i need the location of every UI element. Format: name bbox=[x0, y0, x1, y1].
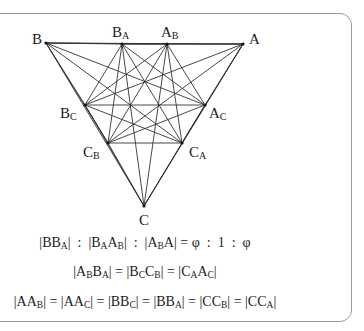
vertex-CB bbox=[106, 141, 109, 144]
formula-line-2: |ABBA| = |BCCB| = |CAAC| bbox=[0, 264, 290, 280]
edge-CB-BC bbox=[85, 105, 108, 143]
formula-line-1: |BBA| : |BAAB| : |ABA| = φ : 1 : φ bbox=[0, 235, 290, 251]
vertex-CA bbox=[180, 141, 183, 144]
label-AB: AB bbox=[161, 25, 179, 43]
vertex-AC bbox=[203, 103, 206, 106]
vertex-BC bbox=[83, 103, 86, 106]
label-CB: CB bbox=[83, 145, 100, 163]
vertex-B bbox=[44, 41, 47, 44]
edge-BA-BC bbox=[85, 44, 122, 105]
label-AC: AC bbox=[209, 106, 227, 124]
vertex-C bbox=[142, 204, 145, 207]
label-CA: CA bbox=[189, 145, 206, 163]
edge-CA-BC bbox=[85, 105, 182, 143]
label-B: B bbox=[32, 32, 42, 47]
vertex-A bbox=[241, 42, 244, 45]
label-BA: BA bbox=[112, 25, 129, 43]
label-BC: BC bbox=[60, 106, 77, 124]
edge-AB-BC bbox=[85, 44, 167, 105]
edge-AC-CB bbox=[108, 105, 205, 143]
edge-AB-CA bbox=[167, 44, 182, 143]
edge-CA-C bbox=[144, 143, 182, 206]
edge-BA-CA bbox=[122, 44, 182, 143]
label-C: C bbox=[139, 213, 149, 228]
edge-A-BC bbox=[85, 44, 243, 105]
formula-line-3: |AAB| = |AAC| = |BBC| = |BBA| = |CCB| = … bbox=[0, 294, 290, 310]
edge-B-AC bbox=[46, 43, 205, 105]
edge-AB-CB bbox=[108, 44, 167, 143]
edge-A-CB bbox=[108, 44, 243, 143]
label-A: A bbox=[249, 32, 260, 47]
edge-B-BC bbox=[46, 43, 85, 105]
triangle-diagram bbox=[0, 0, 364, 331]
